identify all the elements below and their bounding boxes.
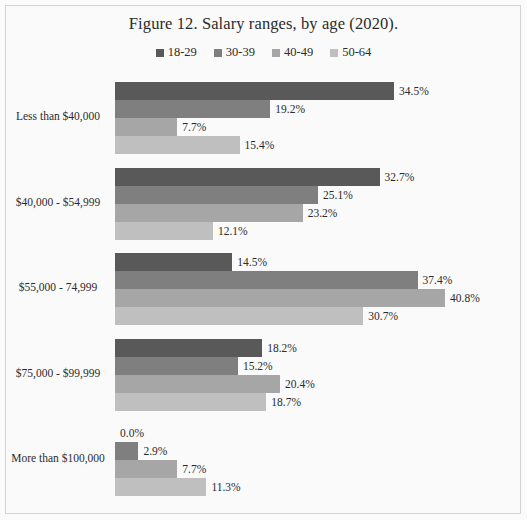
bar-row[interactable]: 18.2% bbox=[115, 339, 297, 357]
bar-row[interactable]: 25.1% bbox=[115, 186, 353, 204]
bar-row[interactable]: 40.8% bbox=[115, 289, 480, 307]
bar[interactable] bbox=[115, 271, 418, 289]
bar-value-label: 11.3% bbox=[206, 481, 240, 493]
bar-value-label: 19.2% bbox=[270, 103, 305, 115]
bar-row[interactable]: 34.5% bbox=[115, 82, 429, 100]
bar-value-label: 40.8% bbox=[445, 292, 480, 304]
bar-value-label: 14.5% bbox=[232, 256, 267, 268]
category-label: Less than $40,000 bbox=[6, 110, 110, 122]
bar-row[interactable]: 2.9% bbox=[115, 442, 167, 460]
bar[interactable] bbox=[115, 222, 213, 240]
bar-row[interactable]: 15.2% bbox=[115, 357, 273, 375]
category-label: $40,000 - $54,999 bbox=[6, 196, 110, 208]
bar-value-label: 20.4% bbox=[280, 378, 315, 390]
bar-row[interactable]: 11.3% bbox=[115, 478, 241, 496]
bar-row[interactable]: 7.7% bbox=[115, 460, 206, 478]
bar-value-label: 30.7% bbox=[363, 310, 398, 322]
bar-row[interactable]: 7.7% bbox=[115, 118, 206, 136]
legend-item[interactable]: 50-64 bbox=[330, 45, 371, 60]
bar-row[interactable]: 19.2% bbox=[115, 100, 305, 118]
bar[interactable] bbox=[115, 118, 177, 136]
legend-item[interactable]: 40-49 bbox=[272, 45, 313, 60]
bar-row[interactable]: 14.5% bbox=[115, 253, 267, 271]
chart-title: Figure 12. Salary ranges, by age (2020). bbox=[0, 14, 527, 34]
bar-row[interactable]: 20.4% bbox=[115, 375, 315, 393]
bar-value-label: 7.7% bbox=[177, 121, 206, 133]
category-label: $75,000 - $99,999 bbox=[6, 367, 110, 379]
bar-row[interactable]: 12.1% bbox=[115, 222, 248, 240]
legend-swatch-icon bbox=[156, 49, 164, 57]
bar-group: Less than $40,00034.5%19.2%7.7%15.4% bbox=[6, 82, 521, 154]
bar[interactable] bbox=[115, 253, 232, 271]
figure-container: Figure 12. Salary ranges, by age (2020).… bbox=[0, 0, 527, 520]
category-label: $55,000 - 74,999 bbox=[6, 281, 110, 293]
bar[interactable] bbox=[115, 478, 206, 496]
bar[interactable] bbox=[115, 136, 240, 154]
bar-row[interactable]: 15.4% bbox=[115, 136, 274, 154]
bar[interactable] bbox=[115, 100, 270, 118]
legend-label: 18-29 bbox=[168, 45, 197, 60]
bar-row[interactable]: 37.4% bbox=[115, 271, 452, 289]
bar-value-label: 15.4% bbox=[240, 139, 275, 151]
chart-legend: 18-2930-3940-4950-64 bbox=[0, 45, 527, 60]
legend-label: 30-39 bbox=[226, 45, 255, 60]
bar[interactable] bbox=[115, 375, 280, 393]
bar-row[interactable]: 32.7% bbox=[115, 168, 414, 186]
bar-row[interactable]: 30.7% bbox=[115, 307, 398, 325]
bar-value-label: 2.9% bbox=[138, 445, 167, 457]
bar-row[interactable]: 18.7% bbox=[115, 393, 301, 411]
legend-item[interactable]: 30-39 bbox=[214, 45, 255, 60]
bar[interactable] bbox=[115, 357, 238, 375]
bar-value-label: 34.5% bbox=[394, 85, 429, 97]
bar-value-label: 32.7% bbox=[380, 171, 415, 183]
bar-value-label: 7.7% bbox=[177, 463, 206, 475]
bar[interactable] bbox=[115, 186, 318, 204]
bar[interactable] bbox=[115, 442, 138, 460]
legend-swatch-icon bbox=[330, 49, 338, 57]
bar[interactable] bbox=[115, 168, 380, 186]
legend-swatch-icon bbox=[272, 49, 280, 57]
legend-item[interactable]: 18-29 bbox=[156, 45, 197, 60]
bar-value-label: 37.4% bbox=[418, 274, 453, 286]
legend-swatch-icon bbox=[214, 49, 222, 57]
bar[interactable] bbox=[115, 289, 445, 307]
bar-group: $75,000 - $99,99918.2%15.2%20.4%18.7% bbox=[6, 339, 521, 411]
bar[interactable] bbox=[115, 460, 177, 478]
bar-group: More than $100,0000.0%2.9%7.7%11.3% bbox=[6, 424, 521, 496]
bar-value-label: 25.1% bbox=[318, 189, 353, 201]
plot-area: Less than $40,00034.5%19.2%7.7%15.4%$40,… bbox=[6, 72, 521, 500]
bar[interactable] bbox=[115, 82, 394, 100]
bar-row[interactable]: 23.2% bbox=[115, 204, 337, 222]
bar-row[interactable]: 0.0% bbox=[115, 424, 144, 442]
bar[interactable] bbox=[115, 339, 262, 357]
bar-value-label: 23.2% bbox=[303, 207, 338, 219]
legend-label: 50-64 bbox=[342, 45, 371, 60]
legend-label: 40-49 bbox=[284, 45, 313, 60]
bar-value-label: 12.1% bbox=[213, 225, 248, 237]
bar-group: $40,000 - $54,99932.7%25.1%23.2%12.1% bbox=[6, 168, 521, 240]
bar[interactable] bbox=[115, 393, 266, 411]
bar[interactable] bbox=[115, 204, 303, 222]
bar-value-label: 0.0% bbox=[115, 427, 144, 439]
bar-value-label: 18.7% bbox=[266, 396, 301, 408]
bar[interactable] bbox=[115, 307, 363, 325]
bar-value-label: 15.2% bbox=[238, 360, 273, 372]
bar-group: $55,000 - 74,99914.5%37.4%40.8%30.7% bbox=[6, 253, 521, 325]
bar-value-label: 18.2% bbox=[262, 342, 297, 354]
category-label: More than $100,000 bbox=[6, 452, 110, 464]
